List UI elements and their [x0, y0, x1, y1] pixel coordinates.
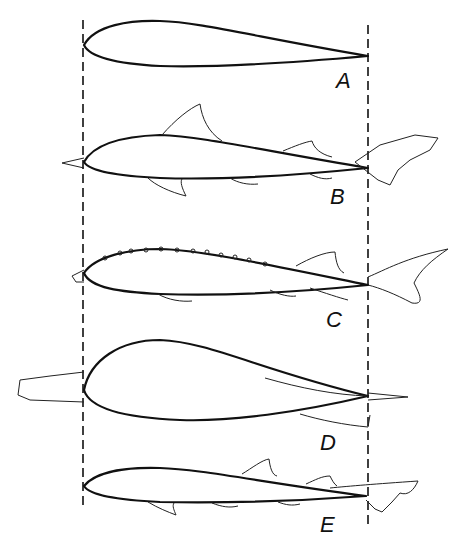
label-d: D	[320, 430, 336, 455]
label-c: C	[326, 307, 342, 332]
label-a: A	[334, 68, 351, 93]
figure-b: B	[62, 104, 438, 209]
figure-d: D	[18, 340, 408, 455]
label-e: E	[320, 512, 335, 537]
figure-e: E	[84, 459, 418, 537]
label-b: B	[330, 184, 345, 209]
figure-a: A	[84, 21, 368, 93]
figure-c: C	[72, 247, 448, 332]
fish-profile-diagram: A B C D	[0, 0, 464, 551]
